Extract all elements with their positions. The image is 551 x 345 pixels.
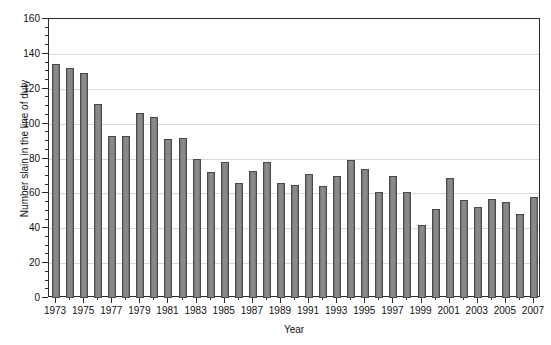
bar: [108, 136, 116, 298]
y-tick-label: 120: [0, 82, 40, 93]
bar: [249, 171, 257, 298]
bar: [221, 162, 229, 298]
y-tick-label: 80: [0, 152, 40, 163]
bar: [403, 192, 411, 298]
y-tick-label: 100: [0, 117, 40, 128]
bar: [277, 183, 285, 298]
bar: [333, 176, 341, 298]
y-axis-title: Number slain in the line of duty: [16, 0, 34, 297]
bar: [66, 68, 74, 298]
bar: [164, 139, 172, 298]
bar: [179, 138, 187, 298]
bar: [389, 176, 397, 298]
bar: [122, 136, 130, 298]
y-tick-label: 60: [0, 187, 40, 198]
bar: [347, 160, 355, 298]
plot-area: [48, 18, 540, 297]
bar: [136, 113, 144, 298]
bar: [361, 169, 369, 298]
gridline: [49, 54, 539, 55]
bar: [193, 159, 201, 299]
bar: [291, 185, 299, 298]
bar: [418, 225, 426, 298]
y-tick-label: 160: [0, 13, 40, 24]
bar-chart-figure: Number slain in the line of duty 0204060…: [0, 0, 551, 345]
bar: [207, 172, 215, 298]
x-axis-title: Year: [48, 324, 540, 335]
bar: [375, 192, 383, 298]
gridline: [49, 124, 539, 125]
bar: [474, 207, 482, 298]
bar: [94, 104, 102, 298]
bar: [432, 209, 440, 298]
y-tick-label: 40: [0, 222, 40, 233]
bar: [80, 73, 88, 298]
bar: [52, 64, 60, 298]
y-tick-major: [42, 297, 48, 298]
bar: [530, 197, 538, 298]
y-tick-label: 20: [0, 257, 40, 268]
bar: [446, 178, 454, 298]
bar: [460, 200, 468, 298]
bar: [502, 202, 510, 298]
bar: [150, 117, 158, 298]
y-tick-label: 140: [0, 47, 40, 58]
bar: [516, 214, 524, 298]
bar: [319, 186, 327, 298]
bar: [235, 183, 243, 298]
x-tick-label: 2007: [513, 305, 551, 316]
y-tick-label: 0: [0, 292, 40, 303]
gridline: [49, 89, 539, 90]
bar: [305, 174, 313, 298]
bar: [263, 162, 271, 298]
bar: [488, 199, 496, 298]
